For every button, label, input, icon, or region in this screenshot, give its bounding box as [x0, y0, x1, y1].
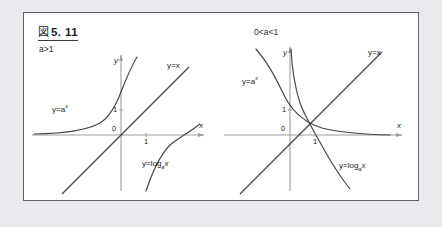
curve-logarithm-left	[146, 124, 200, 191]
y-tick-label-left: 1	[113, 105, 117, 114]
curve-label-logarithm-left-tail: x	[164, 159, 168, 168]
y-axis-arrow-left	[119, 55, 123, 61]
y-axis-label-left: y	[114, 56, 118, 65]
curve-label-identity-left-text: y=x	[167, 61, 180, 70]
curve-label-exponential-right-sup: x	[255, 75, 258, 81]
panel-a-greater-than-1: a>1 y x 1 0 1	[24, 13, 222, 202]
curve-label-identity-left: y=x	[167, 61, 180, 70]
origin-label-right: 0	[281, 124, 285, 133]
x-axis-label-right: x	[397, 121, 401, 130]
x-axis-arrow-right	[396, 133, 402, 137]
curve-exponential-left	[34, 57, 137, 134]
x-tick-label-left: 1	[144, 137, 148, 146]
curve-label-logarithm-right-tail: x	[361, 161, 365, 170]
origin-label-left: 0	[112, 124, 116, 133]
x-axis-label-left: x	[199, 121, 203, 130]
curve-label-exponential-right-text: y=a	[242, 77, 255, 86]
figure-card: 図 5. 11 a>1	[23, 12, 419, 201]
curve-label-logarithm-right: y=logax	[339, 161, 365, 172]
curve-exponential-right	[256, 49, 390, 135]
y-axis-label-right: y	[283, 48, 287, 57]
curve-identity-left	[62, 67, 189, 194]
curve-label-exponential-left-sup: x	[65, 103, 68, 109]
x-axis-arrow-left	[198, 133, 204, 137]
curve-label-logarithm-left-head: y=log	[142, 159, 161, 168]
curve-label-identity-right-text: y=x	[368, 48, 381, 57]
graph-right	[222, 13, 420, 202]
curve-label-identity-right: y=x	[368, 48, 381, 57]
curve-label-exponential-left-text: y=a	[52, 105, 65, 114]
y-tick-label-right: 1	[282, 105, 286, 114]
x-tick-label-right: 1	[313, 137, 317, 146]
screenshot-root: 図 5. 11 a>1	[0, 0, 442, 227]
curve-label-logarithm-right-head: y=log	[339, 161, 358, 170]
panel-a-between-zero-and-one: 0<a<1 y x 1 0	[222, 13, 420, 202]
curve-label-exponential-left: y=ax	[52, 103, 68, 114]
curve-label-logarithm-left: y=logax	[142, 159, 168, 170]
curve-label-exponential-right: y=ax	[242, 75, 258, 86]
